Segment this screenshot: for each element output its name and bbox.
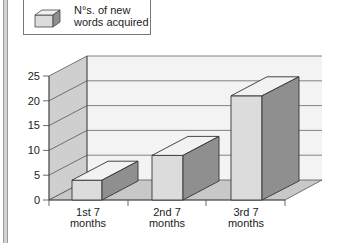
y-tick-label: 25 (28, 70, 40, 82)
x-category-label: months (228, 217, 265, 229)
y-axis (43, 76, 49, 200)
y-tick-label: 0 (34, 194, 40, 206)
y-tick-label: 5 (34, 169, 40, 181)
bar-3rd-7-months (231, 77, 299, 200)
x-category-label: months (70, 217, 107, 229)
y-tick-label: 10 (28, 144, 40, 156)
x-category-label: months (149, 217, 186, 229)
y-tick-label: 15 (28, 119, 40, 131)
y-tick-label: 20 (28, 95, 40, 107)
bar-chart: 0 5 10 15 20 25 1st 7 months 2nd 7 month… (0, 0, 337, 243)
